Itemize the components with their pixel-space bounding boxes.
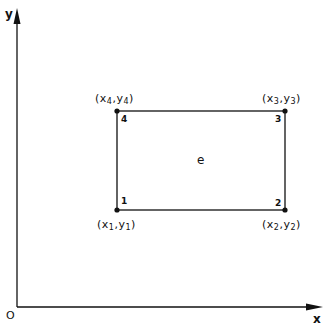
node-1-point [114, 207, 119, 212]
node-3-number: 3 [275, 115, 282, 124]
x-axis-arrowhead [306, 304, 323, 311]
diagram-graphics [0, 0, 328, 327]
element-label: e [197, 154, 205, 166]
origin-label: O [6, 310, 15, 321]
node-4-number: 4 [121, 115, 128, 124]
node-2-point [282, 207, 287, 212]
x-var: x [100, 92, 107, 105]
finite-element-diagram: y x O e 1 2 3 4 (x1,y1) (x2,y2) (x3,y3) … [0, 0, 328, 327]
node-2-coord-label: (x2,y2) [262, 219, 301, 232]
x-var: x [267, 92, 274, 105]
paren-close: ) [131, 218, 136, 231]
paren-close: ) [296, 92, 301, 105]
paren-close: ) [129, 92, 134, 105]
paren-close: ) [296, 218, 301, 231]
y-axis-label: y [5, 8, 13, 20]
node-1-coord-label: (x1,y1) [97, 219, 136, 232]
x-var: x [267, 218, 274, 231]
node-4-coord-label: (x4,y4) [95, 93, 134, 106]
node-4-point [114, 108, 119, 113]
node-2-number: 2 [275, 199, 282, 208]
x-var: x [102, 218, 109, 231]
node-1-number: 1 [121, 197, 128, 206]
y-axis-arrowhead [14, 8, 21, 24]
x-axis-label: x [313, 313, 321, 325]
node-3-point [282, 108, 287, 113]
node-3-coord-label: (x3,y3) [262, 93, 301, 106]
